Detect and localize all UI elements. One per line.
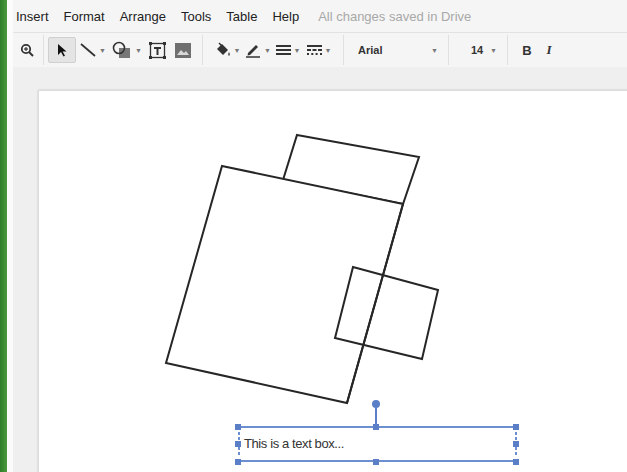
resize-handle-top[interactable]	[373, 424, 379, 430]
resize-handle-bottom-right[interactable]	[513, 459, 519, 465]
rotate-handle[interactable]	[372, 400, 380, 408]
resize-handle-top-left[interactable]	[235, 424, 241, 430]
drawing-shapes	[0, 0, 627, 472]
resize-handle-bottom-left[interactable]	[235, 459, 241, 465]
large-rotated-square[interactable]	[166, 166, 403, 403]
resize-handle-left[interactable]	[235, 441, 241, 447]
rotate-handle-stem	[375, 406, 377, 426]
resize-handle-bottom[interactable]	[373, 459, 379, 465]
text-box-content[interactable]: This is a text box...	[244, 436, 344, 451]
selected-text-box[interactable]: This is a text box...	[238, 426, 516, 462]
resize-handle-right[interactable]	[513, 441, 519, 447]
resize-handle-top-right[interactable]	[513, 424, 519, 430]
